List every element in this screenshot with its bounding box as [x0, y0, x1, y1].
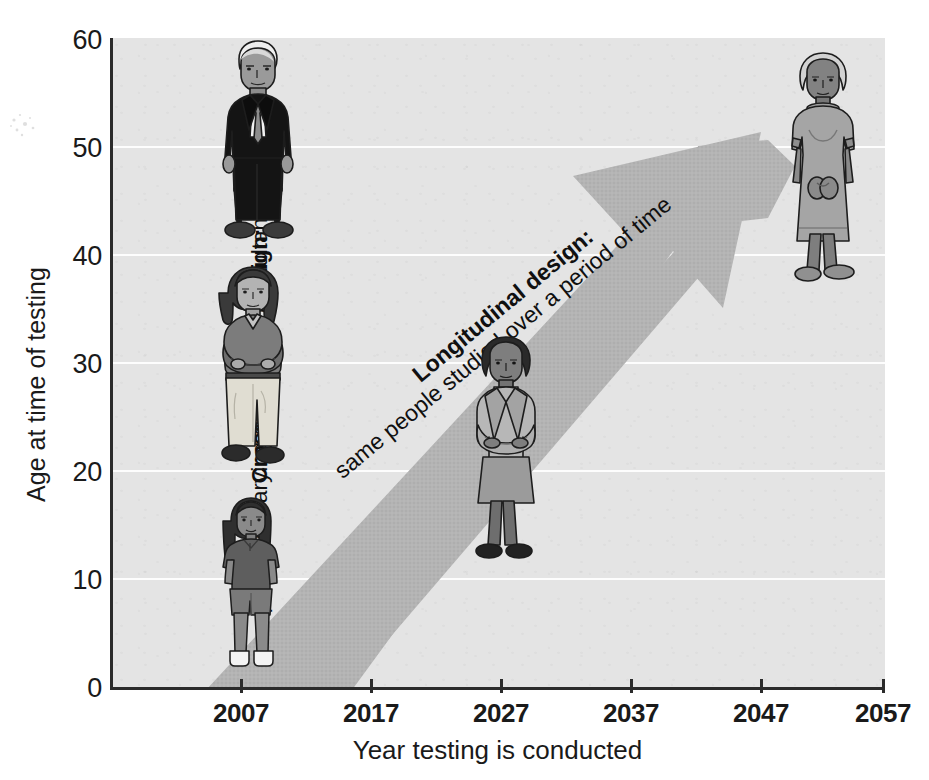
y-tick-label-10: 10 [42, 565, 102, 596]
young-woman-figure [198, 263, 308, 475]
elderly-woman-figure [768, 48, 878, 283]
y-tick-label-50: 50 [42, 133, 102, 164]
scan-artifact [6, 108, 46, 144]
y-tick-label-40: 40 [42, 241, 102, 272]
x-tick-mark-2027 [500, 679, 503, 693]
x-tick-mark-2057 [882, 679, 885, 693]
x-tick-mark-2017 [370, 679, 373, 693]
x-tick-mark-2047 [760, 679, 763, 693]
y-tick-label-30: 30 [42, 349, 102, 380]
y-tick-label-20: 20 [42, 457, 102, 488]
x-tick-label-2037: 2037 [576, 698, 686, 729]
x-tick-label-2017: 2017 [316, 698, 426, 729]
middle-aged-woman-figure [451, 333, 561, 565]
plot-area: Cross-sectional design: people of varyin… [110, 38, 885, 690]
x-tick-mark-2037 [630, 679, 633, 693]
x-tick-label-2027: 2027 [446, 698, 556, 729]
x-tick-label-2007: 2007 [186, 698, 296, 729]
x-axis-title: Year testing is conducted [110, 735, 885, 766]
older-man-figure [203, 38, 313, 243]
x-tick-mark-2007 [240, 679, 243, 693]
child-figure [203, 493, 298, 673]
y-tick-label-60: 60 [42, 25, 102, 56]
y-tick-label-0: 0 [42, 673, 102, 704]
x-tick-label-2057: 2057 [828, 698, 929, 729]
developmental-research-designs-figure: Age at time of testing 60 50 40 30 20 10… [0, 0, 929, 780]
x-tick-label-2047: 2047 [706, 698, 816, 729]
